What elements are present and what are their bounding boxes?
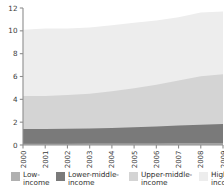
x-tick-label: 2005 [131, 151, 139, 169]
legend-item-upper-middle-income[interactable]: Upper-middle- income [129, 171, 199, 188]
legend-label-low-income: Low- income [23, 171, 49, 188]
plot-svg: 0246810122000200120022003200420052006200… [0, 0, 224, 168]
chart-legend: Low- income Lower-middle- income Upper-m… [0, 171, 224, 195]
x-tick-label: 2002 [64, 151, 72, 169]
y-tick-label: 6 [13, 72, 18, 81]
x-tick-label: 2007 [175, 151, 183, 169]
x-tick-label: 2006 [153, 150, 161, 168]
x-tick-label: 2004 [108, 150, 116, 168]
y-tick-label: 10 [8, 26, 18, 35]
legend-item-low-income[interactable]: Low- income [11, 171, 56, 188]
legend-item-lower-middle-income[interactable]: Lower-middle- income [56, 171, 129, 188]
y-tick-label: 8 [13, 49, 18, 58]
plot-area: 0246810122000200120022003200420052006200… [0, 0, 224, 168]
legend-swatch-low-income [11, 172, 20, 181]
y-tick-label: 12 [8, 4, 17, 13]
legend-swatch-high-income [199, 172, 208, 181]
legend-swatch-upper-middle-income [129, 172, 138, 181]
legend-label-upper-middle-income: Upper-middle- income [141, 171, 192, 188]
y-tick-label: 2 [13, 118, 18, 127]
legend-label-lower-middle-income: Lower-middle- income [68, 171, 119, 188]
x-tick-label: 2003 [86, 151, 94, 169]
legend-swatch-lower-middle-income [56, 172, 65, 181]
x-tick-label: 2001 [42, 151, 50, 169]
legend-item-high-income[interactable]: High- income [199, 171, 224, 188]
x-tick-label: 2009 [220, 151, 224, 169]
y-tick-label: 0 [13, 141, 18, 150]
y-tick-label: 4 [13, 95, 18, 104]
legend-label-high-income: High- income [211, 171, 224, 188]
x-tick-label: 2008 [197, 151, 205, 169]
stacked-area-chart: 0246810122000200120022003200420052006200… [0, 0, 224, 195]
x-tick-label: 2000 [20, 151, 28, 169]
